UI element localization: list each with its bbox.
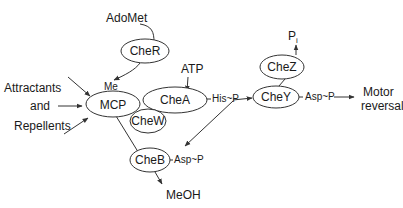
repellents-label: Repellents bbox=[14, 119, 71, 133]
cheb-node: CheB bbox=[130, 148, 170, 172]
cher-label: CheR bbox=[130, 44, 161, 58]
chez-node: CheZ bbox=[260, 55, 304, 79]
attractants-label: Attractants bbox=[4, 81, 61, 95]
chew-label: CheW bbox=[131, 114, 165, 128]
chea-label: CheA bbox=[160, 93, 190, 107]
chez-chey-connector bbox=[279, 79, 285, 86]
chey-label: CheY bbox=[261, 90, 291, 104]
cher-to-me-arrow bbox=[114, 63, 140, 80]
mcp-label: MCP bbox=[100, 98, 127, 112]
reversal-label: reversal bbox=[361, 99, 403, 113]
motor-label: Motor bbox=[363, 85, 394, 99]
attractant-arrow-top bbox=[68, 77, 90, 96]
adomet-label: AdoMet bbox=[106, 11, 148, 25]
pi-label: Pi bbox=[288, 29, 298, 45]
chez-label: CheZ bbox=[267, 60, 296, 74]
chey-node: CheY bbox=[253, 86, 299, 108]
and-label: and bbox=[30, 99, 50, 113]
his-p-label: His~P bbox=[212, 93, 239, 104]
me-label: Me bbox=[104, 81, 118, 92]
chey-asp-p-label: Asp~P bbox=[305, 91, 335, 102]
cheb-label: CheB bbox=[135, 153, 165, 167]
chew-node: CheW bbox=[130, 109, 166, 133]
cher-node: CheR bbox=[121, 39, 169, 63]
cheb-to-meoh-arrow bbox=[155, 172, 162, 184]
cheb-asp-p-label: Asp~P bbox=[174, 154, 204, 165]
meoh-label: MeOH bbox=[166, 188, 201, 202]
atp-label: ATP bbox=[181, 62, 203, 76]
chemotaxis-pathway-diagram: AdoMet CheR Me ATP Attractants and Repel… bbox=[0, 0, 403, 208]
